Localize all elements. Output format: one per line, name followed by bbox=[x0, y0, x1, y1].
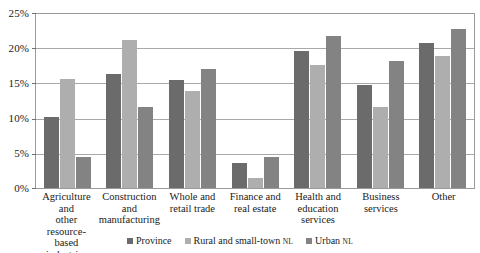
legend-item[interactable]: Province bbox=[127, 236, 172, 246]
bar[interactable] bbox=[451, 29, 466, 188]
grouped-bar-chart: 25% 20% 15% 10% 5% 0% Agriculture andoth… bbox=[0, 0, 480, 253]
legend-swatch-icon bbox=[306, 238, 312, 244]
legend-label: Province bbox=[136, 236, 172, 246]
bar-group bbox=[224, 14, 287, 188]
x-axis-category-label: Businessservices bbox=[349, 191, 412, 231]
plot-area bbox=[35, 13, 475, 189]
bar[interactable] bbox=[419, 43, 434, 188]
bar[interactable] bbox=[201, 69, 216, 188]
y-axis-tick-label: 20% bbox=[9, 43, 29, 54]
legend-item[interactable]: Urban NL bbox=[306, 236, 353, 246]
bar-group bbox=[411, 14, 474, 188]
bar-group bbox=[99, 14, 162, 188]
y-axis-tick-label: 15% bbox=[9, 78, 29, 89]
bar[interactable] bbox=[76, 157, 91, 188]
bar-group bbox=[36, 14, 99, 188]
y-axis-tick-label: 5% bbox=[14, 148, 29, 159]
bar[interactable] bbox=[248, 178, 263, 188]
legend-swatch-icon bbox=[127, 238, 133, 244]
bar[interactable] bbox=[373, 107, 388, 188]
y-axis-tick-label: 10% bbox=[9, 113, 29, 124]
bar[interactable] bbox=[435, 56, 450, 188]
x-axis-category-label: Agriculture andother resource-based indu… bbox=[35, 191, 98, 231]
bar[interactable] bbox=[264, 157, 279, 188]
y-axis-tick-label: 0% bbox=[14, 183, 29, 194]
bar[interactable] bbox=[138, 107, 153, 188]
legend-item[interactable]: Rural and small-town NL bbox=[185, 236, 294, 246]
bar[interactable] bbox=[357, 85, 372, 188]
bar[interactable] bbox=[294, 51, 309, 188]
x-axis-category-label: Whole andretail trade bbox=[161, 191, 224, 231]
bar-groups bbox=[36, 14, 474, 188]
legend-label: Urban NL bbox=[315, 236, 353, 246]
bar[interactable] bbox=[60, 79, 75, 188]
x-axis-category-label: Other bbox=[412, 191, 475, 231]
bar[interactable] bbox=[122, 40, 137, 188]
bar[interactable] bbox=[232, 163, 247, 188]
legend-label: Rural and small-town NL bbox=[194, 236, 294, 246]
bar[interactable] bbox=[44, 117, 59, 188]
bar[interactable] bbox=[389, 61, 404, 188]
x-axis-category-label: Constructionandmanufacturing bbox=[98, 191, 161, 231]
chart-legend: ProvinceRural and small-town NLUrban NL bbox=[0, 236, 480, 246]
y-axis-labels: 25% 20% 15% 10% 5% 0% bbox=[0, 0, 33, 253]
x-axis-labels: Agriculture andother resource-based indu… bbox=[35, 191, 475, 231]
bar-group bbox=[349, 14, 412, 188]
y-axis-tick-label: 25% bbox=[9, 8, 29, 19]
legend-swatch-icon bbox=[185, 238, 191, 244]
x-axis-category-label: Health andeducationservices bbox=[287, 191, 350, 231]
bar[interactable] bbox=[326, 36, 341, 188]
bar-group bbox=[286, 14, 349, 188]
bar-group bbox=[161, 14, 224, 188]
bar[interactable] bbox=[106, 74, 121, 188]
bar[interactable] bbox=[169, 80, 184, 188]
x-axis-category-label: Finance andreal estate bbox=[224, 191, 287, 231]
bar[interactable] bbox=[185, 91, 200, 188]
y-axis-tick bbox=[32, 188, 36, 189]
bar[interactable] bbox=[310, 65, 325, 188]
